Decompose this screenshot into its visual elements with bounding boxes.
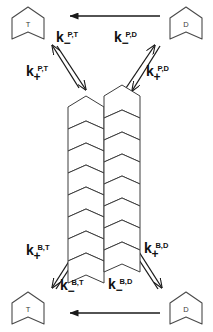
rate-label-k-minus-P-D: k−P,D xyxy=(114,30,137,49)
rate-label-k-plus-P-D: k+P,D xyxy=(146,64,169,83)
rate-label-k-minus-B-T: k−B,T xyxy=(60,278,84,297)
kinetics-diagram: T D T D k−P,T k+P,T k−P,D k+P,D k+B,T k−… xyxy=(0,0,213,332)
rate-symbol: k xyxy=(146,63,154,79)
rate-symbol: k xyxy=(26,242,34,258)
rate-superscript: P,T xyxy=(37,65,48,73)
rate-superscript: B,D xyxy=(155,242,168,250)
rate-symbol: k xyxy=(56,29,64,45)
filament xyxy=(68,85,140,283)
pool-label-bottom-left: T xyxy=(18,305,38,314)
rate-label-k-minus-P-T: k−P,T xyxy=(56,30,78,49)
rate-superscript: P,T xyxy=(67,31,78,39)
rate-superscript: P,D xyxy=(125,31,137,39)
arrow-k-plus-P-T xyxy=(57,46,86,90)
rate-label-k-plus-B-T: k+B,T xyxy=(26,243,50,262)
pool-label-top-right: D xyxy=(176,20,196,29)
rate-superscript: B,T xyxy=(37,244,49,252)
rate-superscript: P,D xyxy=(157,65,169,73)
protofilament-left xyxy=(68,96,104,283)
diagram-vector-layer xyxy=(0,0,213,332)
arrow-k-minus-P-T xyxy=(52,45,79,88)
rate-superscript: B,D xyxy=(119,278,132,286)
pool-label-top-left: T xyxy=(18,20,38,29)
rate-symbol: k xyxy=(108,276,116,292)
rate-symbol: k xyxy=(60,277,68,293)
rate-symbol: k xyxy=(26,63,34,79)
rate-label-k-minus-B-D: k−B,D xyxy=(108,277,132,296)
protofilament-right xyxy=(104,85,140,272)
rate-label-k-plus-P-T: k+P,T xyxy=(26,64,48,83)
rate-symbol: k xyxy=(114,29,122,45)
pool-label-bottom-right: D xyxy=(176,305,196,314)
rate-label-k-plus-B-D: k+B,D xyxy=(144,241,168,260)
rate-symbol: k xyxy=(144,240,152,256)
rate-superscript: B,T xyxy=(71,279,83,287)
